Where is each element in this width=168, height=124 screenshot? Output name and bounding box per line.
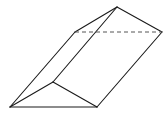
edge-CF bbox=[53, 7, 117, 82]
edge-FE bbox=[117, 7, 162, 32]
triangular-prism-diagram bbox=[0, 0, 168, 124]
edge-AD bbox=[10, 32, 75, 107]
edge-DF bbox=[75, 7, 117, 32]
edge-AC bbox=[10, 82, 53, 107]
visible-edges bbox=[10, 7, 162, 107]
edge-CB bbox=[53, 82, 97, 107]
edge-BE bbox=[97, 32, 162, 107]
